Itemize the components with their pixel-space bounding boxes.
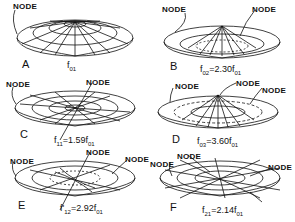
node-label: NODE [262,86,286,95]
freq-ratio: =2.30f [209,64,234,74]
frequency-label-f: f21=2.14f01 [202,205,243,217]
node-label: NODE [86,78,110,87]
freq-ratio: =2.14f [211,205,236,215]
freq-subscript: 01 [88,141,95,147]
freq-ratio: =1.59f [63,135,88,145]
node-label: NODE [10,157,34,166]
freq-ratio: =3.60f [206,136,231,146]
node-label: NODE [177,152,201,161]
freq-subscript: 01 [234,70,241,76]
frequency-label-d: f03=3.60f01 [197,136,238,148]
frequency-label-e: f'12=2.92f01 [60,203,103,215]
node-label: NODE [125,155,149,164]
panel-letter-e: E [18,199,25,211]
frequency-label-a: f01 [67,60,76,72]
panel-a-membrane [13,10,133,56]
vibration-modes-diagram [0,0,295,222]
freq-subscript: 01 [70,66,77,72]
freq-subscript: 01 [231,142,238,148]
frequency-label-b: f02=2.30f01 [200,64,241,76]
node-label: NODE [150,160,174,169]
freq-subscript: 12 [64,209,71,215]
panel-f-membrane [160,155,280,202]
node-label: NODE [86,148,110,157]
panel-letter-f: F [170,201,177,213]
node-label: NODE [162,5,186,14]
freq-subscript: 01 [96,209,103,215]
panel-c-membrane [12,83,135,140]
node-label: NODE [13,2,37,11]
panel-letter-a: A [22,58,29,70]
panel-letter-b: B [170,60,177,72]
panel-letter-c: C [20,128,28,140]
panel-letter-d: D [172,133,180,145]
frequency-label-c: f11=1.59f01 [54,135,95,147]
node-label: NODE [236,79,260,88]
freq-subscript: 01 [236,211,243,217]
node-label: NODE [175,82,199,91]
node-label: NODE [268,163,292,172]
node-label: NODE [252,5,276,14]
panel-b-membrane [164,10,280,58]
node-label: NODE [6,80,30,89]
freq-ratio: =2.92f [71,203,96,213]
